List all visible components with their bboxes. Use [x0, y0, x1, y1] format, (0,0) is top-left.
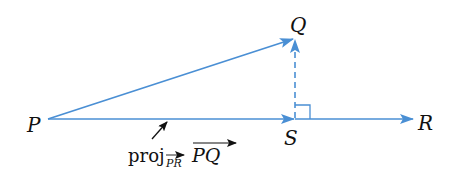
label-s: S — [284, 126, 298, 150]
label-p: P — [26, 113, 41, 137]
label-r: R — [417, 111, 433, 135]
annotation-vector: PQ — [191, 144, 220, 166]
label-q: Q — [290, 13, 306, 37]
projection-annotation: proj PR PQ — [128, 143, 236, 170]
vector-pq — [48, 39, 293, 119]
right-angle-marker — [295, 105, 310, 119]
pointer-arrow-icon — [152, 122, 167, 139]
projection-diagram: P Q S R proj PR PQ — [0, 0, 459, 180]
annotation-subscript: PR — [165, 157, 182, 170]
annotation-prefix: proj — [128, 145, 165, 166]
